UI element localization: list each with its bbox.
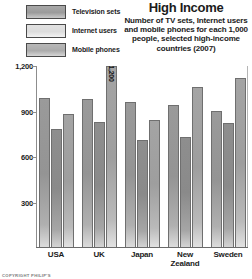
copyright-notice: COPYRIGHT PHILIP'S [2, 273, 51, 278]
legend-swatch-mobile-phones [26, 43, 66, 57]
bar-television-sets [211, 111, 222, 247]
chart-legend: Television sets Internet users Mobile ph… [26, 3, 126, 60]
legend-swatch-internet-users [26, 24, 66, 38]
bar-mobile-phones [192, 87, 203, 247]
y-axis-tick-mark [32, 203, 36, 204]
bar-television-sets [168, 105, 179, 247]
bar-group [166, 66, 204, 247]
y-axis-tick-label: 1,200 [15, 62, 33, 71]
x-axis-label: Japan [123, 250, 161, 268]
bar-television-sets [125, 102, 136, 247]
bar-mobile-phones [63, 114, 74, 247]
legend-label-internet-users: Internet users [72, 26, 117, 35]
bar-mobile-phones [149, 120, 160, 247]
y-axis-tick-mark [32, 157, 36, 158]
legend-item-mobile-phones: Mobile phones [26, 41, 126, 58]
plot-area: 3006009001,200 1,200 [36, 66, 248, 248]
chart-subtitle: Number of TV sets, Internet users and mo… [123, 16, 249, 53]
chart-title-block: High Income Number of TV sets, Internet … [123, 1, 249, 53]
legend-label-mobile-phones: Mobile phones [72, 45, 120, 54]
x-axis-line [36, 247, 248, 248]
legend-item-television-sets: Television sets [26, 3, 126, 20]
chart-header: Television sets Internet users Mobile ph… [0, 0, 252, 56]
bar-television-sets [82, 99, 93, 247]
legend-label-television-sets: Television sets [72, 7, 120, 16]
bar-value-label: 1,200 [108, 65, 115, 81]
x-axis-label: Sweden [209, 250, 247, 268]
bar-internet-users [180, 137, 191, 247]
x-axis-label: New Zealand [166, 250, 204, 268]
bar-internet-users [51, 129, 62, 247]
bar-mobile-phones: 1,200 [106, 66, 117, 247]
x-axis-label: USA [37, 250, 75, 268]
chart-title: High Income [123, 1, 249, 15]
legend-item-internet-users: Internet users [26, 22, 126, 39]
bar-group [123, 66, 161, 247]
x-axis-labels: USAUKJapanNew ZealandSweden [37, 250, 247, 268]
bar-group: 1,200 [80, 66, 118, 247]
bar-internet-users [223, 123, 234, 247]
plot-right-border [247, 66, 248, 248]
bar-mobile-phones [235, 78, 246, 247]
bar-television-sets [39, 98, 50, 247]
y-axis-tick-mark [32, 66, 36, 67]
bar-group [209, 66, 247, 247]
bar-group [37, 66, 75, 247]
bar-internet-users [137, 140, 148, 247]
y-axis-tick-mark [32, 112, 36, 113]
x-axis-label: UK [80, 250, 118, 268]
bar-groups: 1,200 [37, 66, 247, 247]
chart-container: Television sets Internet users Mobile ph… [0, 0, 252, 279]
legend-swatch-television-sets [26, 5, 66, 19]
bar-internet-users [94, 122, 105, 247]
